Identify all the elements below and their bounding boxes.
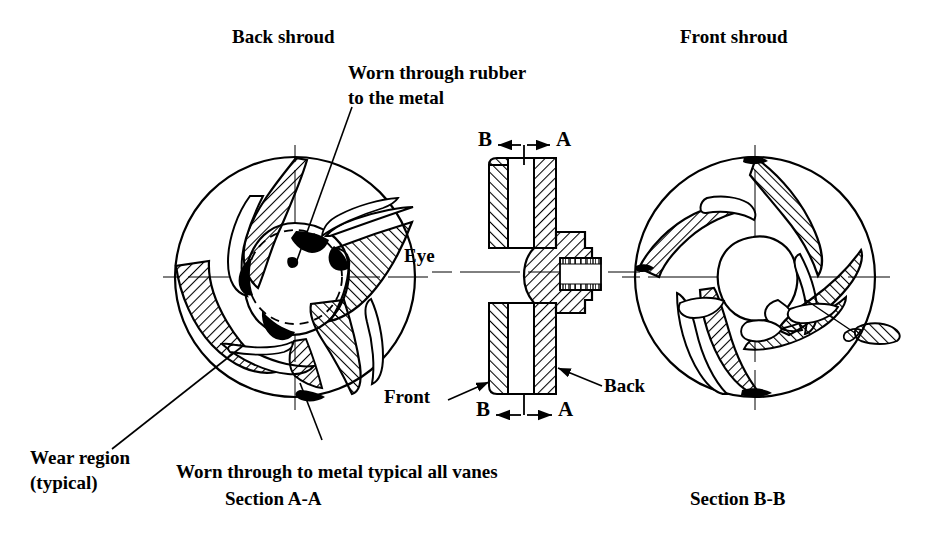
left-impeller-view bbox=[112, 107, 428, 449]
profile-upper-cavity bbox=[508, 158, 534, 248]
title-front-shroud: Front shroud bbox=[680, 26, 788, 47]
right-impeller-view bbox=[622, 145, 900, 410]
label-back: Back bbox=[604, 375, 645, 396]
profile-lower-left-wall bbox=[489, 303, 508, 394]
profile-upper-left-fillet bbox=[489, 158, 508, 165]
right-detached-fragment bbox=[844, 323, 900, 344]
profile-lower-right-wall bbox=[534, 303, 556, 394]
figure-canvas: Back shroud Front shroud Worn through ru… bbox=[0, 0, 931, 543]
profile-lower-cavity bbox=[508, 303, 534, 394]
section-mark-bottom bbox=[496, 394, 552, 415]
caption-section-bb: Section B-B bbox=[690, 488, 786, 509]
note-worn-rubber-line1: Worn through rubber bbox=[348, 62, 526, 83]
section-mark-bottom-right-a: A bbox=[558, 398, 573, 422]
label-worn-all-vanes: Worn through to metal typical all vanes bbox=[176, 461, 498, 482]
left-vane-5 bbox=[290, 339, 322, 388]
label-wear-region-line2: (typical) bbox=[30, 472, 98, 493]
note-worn-rubber-line2: to the metal bbox=[348, 87, 444, 108]
label-front: Front bbox=[384, 386, 430, 407]
caption-section-aa: Section A-A bbox=[225, 488, 322, 509]
section-mark-top-right-a: A bbox=[556, 128, 571, 152]
section-mark-top-left-b: B bbox=[478, 128, 492, 152]
section-mark-bottom-left-b: B bbox=[476, 398, 490, 422]
label-eye: Eye bbox=[404, 245, 435, 266]
profile-upper-right-wall bbox=[534, 158, 556, 248]
title-back-shroud: Back shroud bbox=[232, 26, 335, 47]
label-wear-region-line1: Wear region bbox=[30, 447, 130, 468]
left-vane-4 bbox=[311, 299, 383, 394]
profile-upper-left-wall bbox=[489, 165, 508, 248]
